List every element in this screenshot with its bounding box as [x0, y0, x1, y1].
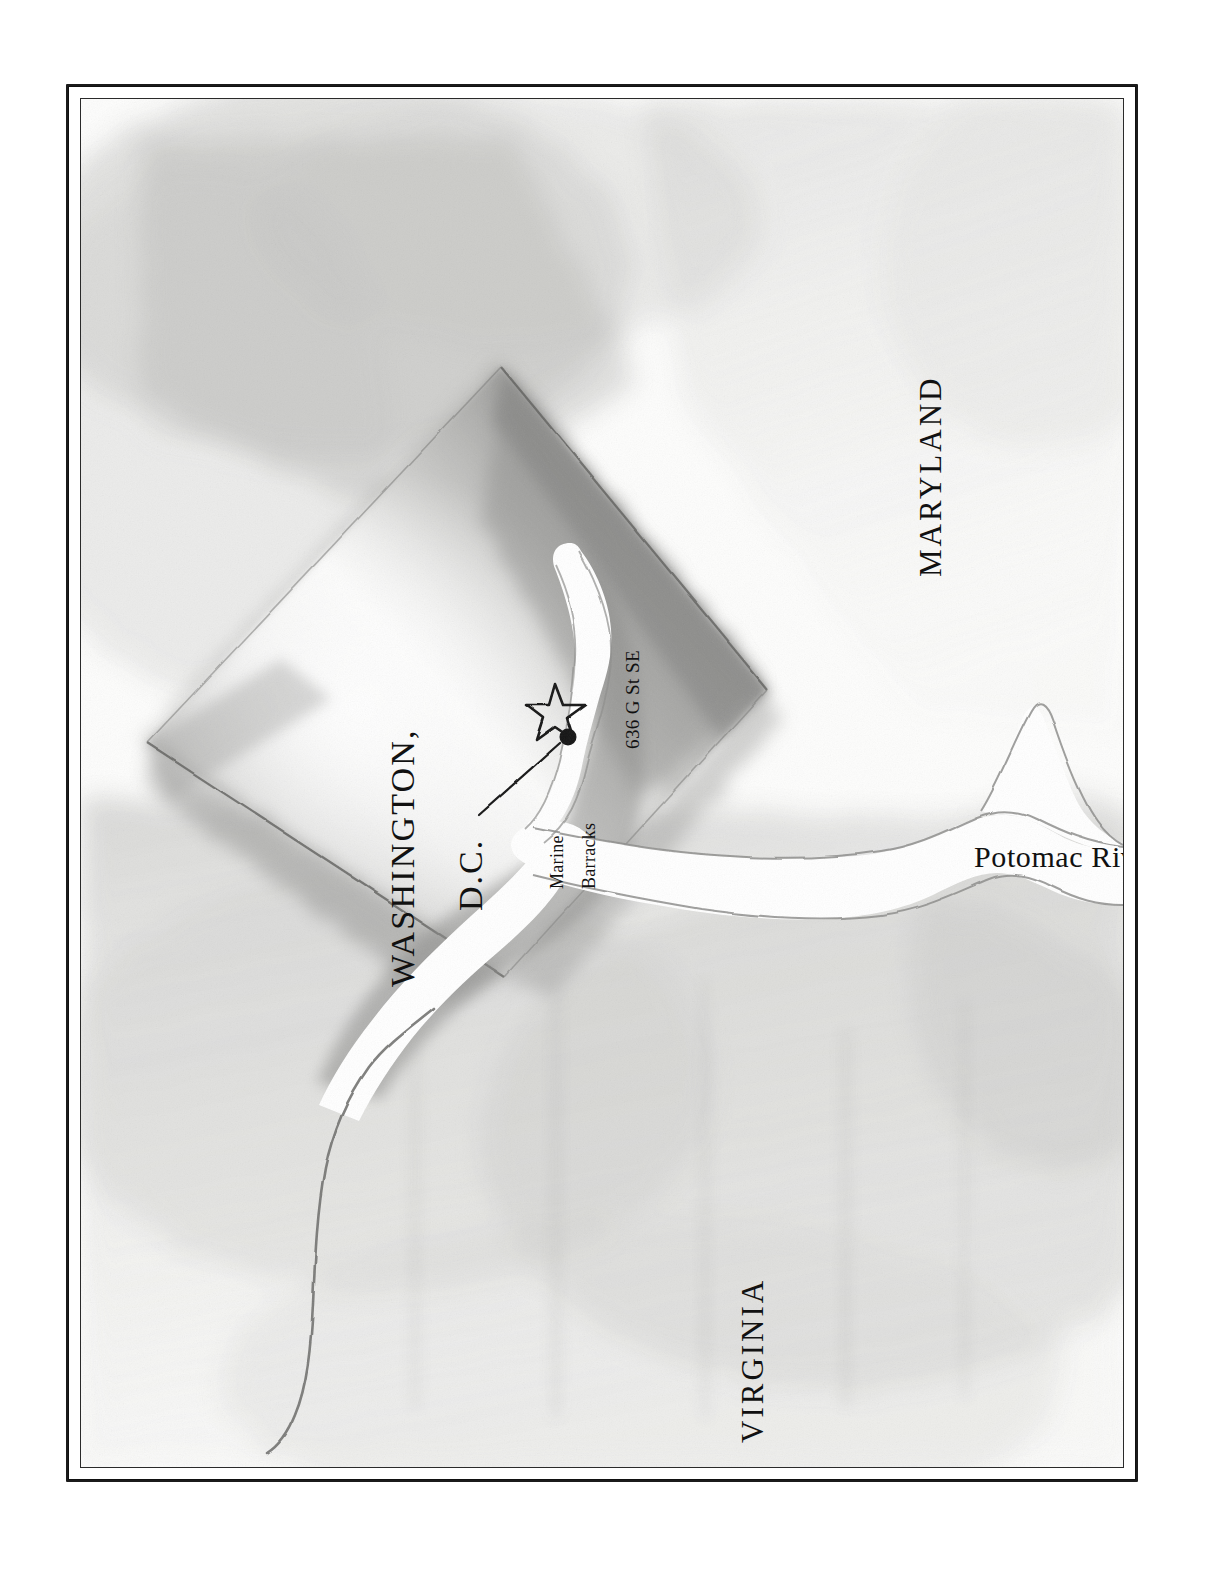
barracks-label-line2: Barracks: [579, 823, 600, 889]
barracks-label-line1: Marine: [547, 835, 568, 889]
map-paper: MARYLAND VIRGINIA WASHINGTON, D.C. Potom…: [81, 99, 1123, 1467]
water-label-potomac-river: Potomac River: [974, 840, 1123, 874]
region-label-washington: WASHINGTON,: [384, 728, 422, 987]
region-label-virginia: VIRGINIA: [735, 1278, 771, 1443]
region-label-maryland: MARYLAND: [913, 376, 949, 577]
address-label: 636 G St SE: [622, 650, 644, 749]
paper-grain: [81, 99, 1123, 1467]
map-artwork: [81, 99, 1123, 1467]
region-label-district: D.C.: [452, 839, 490, 911]
map-page: MARYLAND VIRGINIA WASHINGTON, D.C. Potom…: [0, 0, 1216, 1573]
